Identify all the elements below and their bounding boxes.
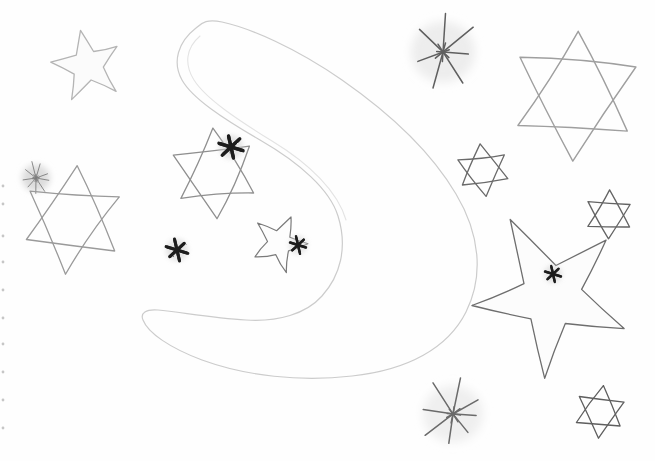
sketch-canvas: Moon and Stars Pencil Sketch graphite pe…: [0, 0, 655, 461]
asterisk-mark: [166, 239, 188, 261]
page-edge-dot: [2, 261, 5, 264]
page-edge-dot: [2, 185, 5, 188]
asterisk-mark: [219, 135, 243, 159]
page-edge-dot: [2, 235, 5, 238]
asterisk-mark: [544, 265, 562, 283]
page-edge-dot: [2, 343, 5, 346]
asterisk-mark: [289, 236, 307, 254]
page-edge-dot: [2, 427, 5, 430]
page-edge-dot: [2, 203, 5, 206]
page-edge-dot: [2, 399, 5, 402]
pencil-sketch-drawing: [0, 0, 655, 461]
page-edge-dot: [2, 371, 5, 374]
page-edge-dot: [2, 317, 5, 320]
page-edge-dot: [2, 289, 5, 292]
